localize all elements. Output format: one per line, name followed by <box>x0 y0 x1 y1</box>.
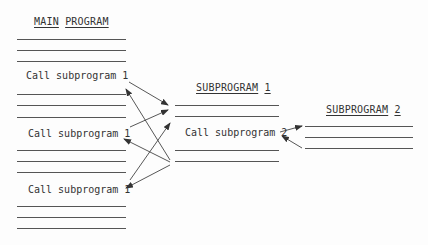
return-arrow <box>126 89 170 160</box>
call-arrow <box>280 126 302 132</box>
return-arrow <box>282 136 302 148</box>
call-arrow <box>130 110 168 127</box>
subprogram-call-diagram: MAIN PROGRAM Call subprogram 1 Call subp… <box>0 0 428 245</box>
call-arrows <box>0 0 428 245</box>
call-arrow <box>129 82 168 105</box>
return-arrow <box>124 139 170 162</box>
